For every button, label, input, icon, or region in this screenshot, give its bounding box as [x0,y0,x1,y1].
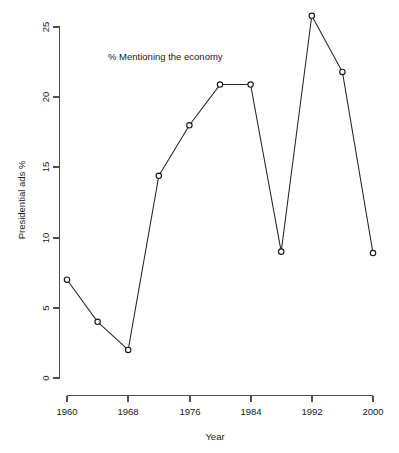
x-tick-label-1976: 1976 [179,406,200,417]
x-tick-label-1968: 1968 [117,406,138,417]
line-chart: 25 20 15 10 5 0 Presidential ads % 1960 … [0,0,399,453]
data-point-marker [340,69,345,74]
plot-annotation-label: % Mentioning the economy [108,51,223,62]
series-line-economy [67,16,373,350]
x-tick-label-1984: 1984 [240,406,261,417]
series-markers [64,13,375,353]
y-tick-label-10: 10 [40,233,51,244]
data-point-marker [248,82,253,87]
data-point-marker [187,123,192,128]
y-axis-title: Presidential ads % [16,160,27,239]
y-tick-label-5: 5 [40,305,51,310]
y-axis-tick-labels: 25 20 15 10 5 0 [40,22,51,381]
y-tick-label-0: 0 [40,375,51,380]
data-point-marker [309,13,314,18]
x-axis-ticks [67,396,373,403]
x-tick-label-2000: 2000 [362,406,383,417]
x-axis-title: Year [205,431,224,442]
chart-container: 25 20 15 10 5 0 Presidential ads % 1960 … [0,0,399,453]
data-point-marker [156,173,161,178]
x-tick-label-1960: 1960 [56,406,77,417]
y-axis-ticks [53,27,60,378]
y-tick-label-25: 25 [40,22,51,33]
x-tick-label-1992: 1992 [301,406,322,417]
data-point-marker [370,250,375,255]
y-tick-label-15: 15 [40,162,51,173]
data-point-marker [95,319,100,324]
x-axis-tick-labels: 1960 1968 1976 1984 1992 2000 [56,406,383,417]
data-point-marker [217,82,222,87]
data-point-marker [279,249,284,254]
y-tick-label-20: 20 [40,92,51,103]
data-point-marker [64,277,69,282]
data-point-marker [126,347,131,352]
